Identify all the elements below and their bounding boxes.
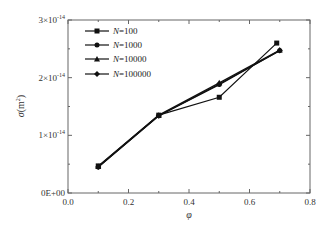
legend-item: N=1000 [85, 40, 143, 50]
legend-item: N=10000 [85, 54, 147, 64]
x-tick-label: 0.4 [183, 197, 195, 207]
diamond-marker-icon [277, 48, 283, 54]
square-marker-icon [217, 95, 222, 100]
square-marker-icon [274, 41, 279, 46]
y-tick-label: 2×10-14 [38, 72, 65, 83]
y-tick-label: 1×10-14 [38, 129, 65, 140]
legend-item: N=100 [85, 26, 138, 36]
y-axis-title: σ(m2) [15, 95, 27, 117]
x-axis-title: φ [186, 209, 192, 220]
diamond-marker-icon [94, 71, 100, 77]
x-tick-label: 0.2 [123, 197, 134, 207]
x-tick-label: 0.0 [62, 197, 74, 207]
svg-text:N=1000: N=1000 [112, 40, 143, 50]
legend: N=100 N=1000 N=10000 N=100000 [85, 26, 152, 79]
circle-marker-icon [95, 43, 100, 48]
chart: 0.0 0.2 0.4 0.6 0.8 0E+00 1×10-14 2×10-1… [0, 0, 332, 232]
legend-item: N=100000 [85, 69, 152, 79]
y-tick-label: 0E+00 [41, 188, 66, 198]
svg-text:N=100000: N=100000 [112, 69, 152, 79]
square-marker-icon [95, 29, 100, 34]
x-tick-label: 0.8 [304, 197, 316, 207]
svg-text:N=10000: N=10000 [112, 54, 147, 64]
x-tick-label: 0.6 [244, 197, 256, 207]
series-n-100000 [95, 48, 283, 170]
svg-text:N=100: N=100 [112, 26, 138, 36]
y-tick-label: 3×10-14 [38, 14, 65, 25]
series-n-1000 [96, 48, 283, 169]
